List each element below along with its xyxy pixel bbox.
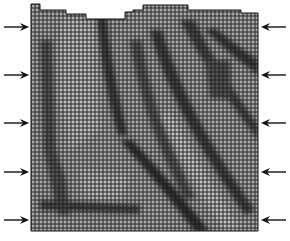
arrow-left-icon: [261, 168, 286, 176]
arrow-right-icon: [4, 119, 29, 127]
arrow-left-icon: [261, 23, 286, 31]
arrow-right-icon: [4, 71, 29, 79]
mesh-figure: [0, 0, 290, 241]
mesh-body: [31, 0, 258, 232]
arrow-left-icon: [261, 216, 286, 224]
arrow-right-icon: [4, 216, 29, 224]
arrow-right-icon: [4, 168, 29, 176]
arrow-left-icon: [261, 71, 286, 79]
arrow-left-icon: [261, 119, 286, 127]
arrow-right-icon: [4, 23, 29, 31]
